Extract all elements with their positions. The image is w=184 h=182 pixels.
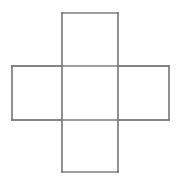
figure-canvas	[0, 0, 184, 182]
left-cell	[12, 66, 62, 120]
bottom-cell	[62, 120, 118, 172]
top-cell	[62, 13, 118, 66]
center-cell	[62, 66, 118, 120]
right-cell	[118, 66, 169, 120]
cross-net-diagram	[0, 0, 184, 182]
